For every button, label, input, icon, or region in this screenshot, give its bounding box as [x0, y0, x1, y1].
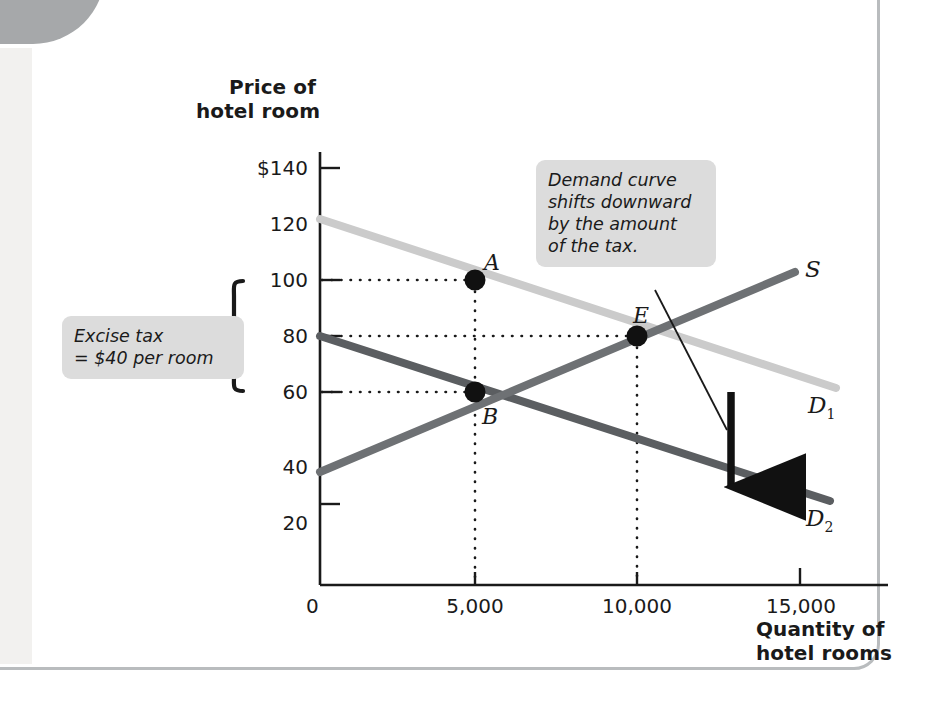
- curve-supply: [320, 272, 795, 472]
- y-tick-label-60: 60: [190, 381, 308, 405]
- excise-tax-callout: Excise tax = $40 per room: [62, 316, 244, 379]
- point-B: [465, 382, 486, 403]
- point-label-A: A: [484, 250, 500, 276]
- y-tick-label-140: $140: [190, 157, 308, 181]
- y-tick-label-100: 100: [190, 269, 308, 293]
- x-tick-label-15000: 15,000: [736, 595, 866, 619]
- guide-lines: [322, 280, 637, 583]
- y-axis-title: Price of hotel room: [196, 76, 316, 123]
- curve-label-demand-1: D1: [808, 392, 835, 422]
- callout-leader-line: [655, 290, 727, 430]
- y-tick-label-40: 40: [190, 456, 308, 480]
- x-axis-title: Quantity of hotel rooms: [756, 618, 892, 665]
- x-tick-label-10000: 10,000: [572, 595, 702, 619]
- figure-page: Price of hotel room Quantity of hotel ro…: [0, 0, 931, 713]
- demand-shift-callout: Demand curve shifts downward by the amou…: [536, 160, 716, 267]
- point-A: [465, 270, 486, 291]
- y-tick-label-120: 120: [190, 213, 308, 237]
- curve-label-supply: S: [805, 256, 821, 283]
- point-label-B: B: [482, 404, 498, 430]
- curve-label-demand-2: D2: [806, 505, 833, 535]
- origin-label: 0: [306, 595, 319, 619]
- y-tick-label-20: 20: [190, 512, 308, 536]
- point-label-E: E: [633, 303, 649, 329]
- x-tick-label-5000: 5,000: [415, 595, 535, 619]
